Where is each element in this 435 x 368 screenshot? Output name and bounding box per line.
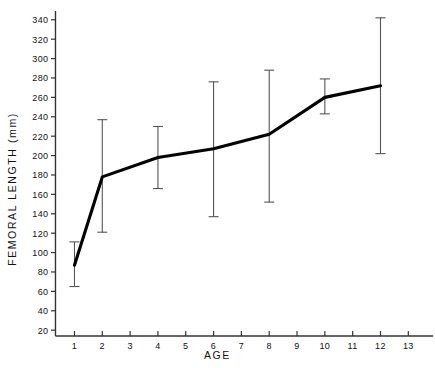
y-axis-tick-label: 60 [38, 287, 49, 297]
y-axis-tick-label: 100 [32, 248, 48, 258]
data-line-layer [74, 86, 380, 265]
y-axis-tick-label: 180 [32, 170, 48, 180]
y-axis-label: FEMORAL LENGTH (mm) [2, 96, 22, 282]
y-axis-tick-label: 300 [32, 54, 48, 64]
data-series-line [74, 86, 380, 265]
y-axis-tick-label: 280 [32, 73, 48, 83]
x-axis-label-text: AGE [0, 349, 435, 361]
y-axis-tick-label: 120 [32, 229, 48, 239]
y-axis-tick-label: 80 [38, 267, 49, 277]
y-axis-tick-label: 40 [38, 306, 49, 316]
y-axis-tick-label: 200 [32, 151, 48, 161]
y-axis-tick-label: 320 [32, 35, 48, 45]
y-axis-tick-label: 20 [38, 326, 49, 336]
y-axis-tick-label: 220 [32, 132, 48, 142]
tick-labels-layer: 2040608010012014016018020022024026028030… [32, 15, 413, 350]
y-axis-tick-label: 260 [32, 93, 48, 103]
y-axis-label-text: FEMORAL LENGTH (mm) [6, 112, 18, 266]
y-axis-tick-label: 340 [32, 15, 48, 25]
y-axis-tick-label: 240 [32, 112, 48, 122]
y-axis-tick-label: 160 [32, 190, 48, 200]
y-axis-tick-label: 140 [32, 209, 48, 219]
errorbars-layer [69, 18, 385, 287]
femoral-length-line-chart: 2040608010012014016018020022024026028030… [0, 0, 435, 368]
chart-figure: 2040608010012014016018020022024026028030… [0, 0, 435, 368]
